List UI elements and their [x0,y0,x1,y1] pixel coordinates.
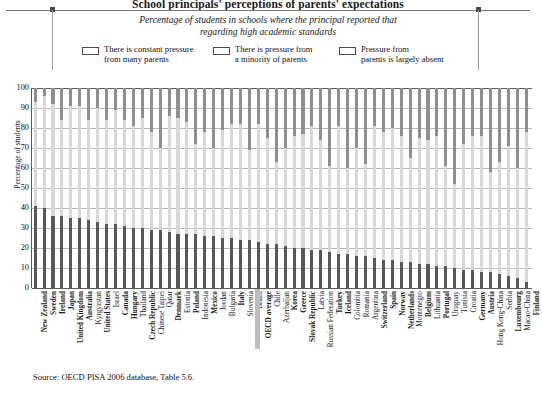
bar-segment-2 [400,88,403,136]
bar-segment-2 [275,88,278,162]
bar-argentina [364,88,367,288]
x-label-text: Austria [487,289,496,381]
x-label-text: Ireland [58,289,67,381]
bar-segment-0 [507,276,510,288]
bar-segment-1 [516,168,519,278]
bar-segment-0 [525,282,528,288]
bar-segment-2 [391,88,394,128]
bar-segment-1 [78,106,81,218]
bar-segment-2 [444,88,447,166]
bar-segment-0 [87,220,90,288]
bar-switzerland [373,88,376,288]
bar-segment-0 [168,232,171,288]
bar-belgium [418,88,421,288]
bar-segment-1 [525,132,528,282]
bar-segment-0 [159,230,162,288]
x-label-text: Thailand [139,289,148,381]
bar-segment-1 [168,116,171,232]
bar-segment-1 [221,130,224,238]
bar-segment-0 [51,216,54,288]
bar-segment-2 [418,88,421,138]
bar-segment-2 [212,88,215,148]
x-label-text: Australia [85,289,94,381]
bar-segment-1 [43,96,46,208]
bar-canada [114,88,117,288]
bar-segment-0 [239,240,242,288]
bar-segment-0 [257,242,260,288]
bar-segment-0 [489,272,492,288]
bar-segment-2 [498,88,501,162]
bar-segment-1 [418,138,421,264]
x-label-text: Russian Federation [326,289,335,381]
bar-segment-2 [203,88,206,132]
subtitle-line-2: regarding high academic standards [60,26,476,38]
y-tick-label-50: 50 [10,183,29,192]
bar-segment-1 [114,110,117,224]
y-tick-label-80: 80 [10,123,29,132]
header-edge-right [478,10,479,70]
bar-segment-1 [373,126,376,258]
y-tick-label-100: 100 [10,83,29,92]
y-tick-label-40: 40 [10,203,29,212]
x-label-text: Jordan [219,289,228,381]
bar-segment-1 [176,118,179,234]
bar-segment-1 [462,144,465,270]
bar-lithuania [426,88,429,288]
bar-segment-1 [284,148,287,246]
bar-segment-2 [176,88,179,118]
bar-segment-2 [435,88,438,136]
bar-segment-2 [105,88,108,120]
bar-luxembourg [507,88,510,288]
bar-segment-1 [355,148,358,256]
bar-segment-1 [203,132,206,236]
legend-item-pressure-absent: Pressure from parents is largely absent [339,44,444,64]
bar-segment-2 [453,88,456,184]
bar-united-states [96,88,99,288]
bar-segment-2 [266,88,269,138]
bar-segment-2 [230,88,233,124]
bar-uruguay [444,88,447,288]
bar-slovak-republic [301,88,304,288]
bar-segment-1 [444,166,447,266]
bar-segment-1 [310,126,313,250]
bar-segment-0 [435,266,438,288]
legend-swatch-icon-1 [213,47,230,55]
x-label-text: Estonia [183,289,192,381]
bar-segment-0 [284,246,287,288]
bar-segment-0 [328,252,331,288]
legend-label-0: There is constant pressure from many par… [104,44,194,64]
bar-segment-0 [444,266,447,288]
legend-item-constant-pressure: There is constant pressure from many par… [82,44,194,64]
bar-segment-1 [150,132,153,230]
x-label-text: Spain [389,289,398,381]
bar-segment-1 [69,106,72,218]
bar-segment-1 [391,128,394,260]
bar-indonesia [194,88,197,288]
bar-segment-0 [400,262,403,288]
legend-swatch-icon-2 [339,47,356,55]
bar-segment-2 [301,88,304,134]
x-label-text: Poland [192,289,201,381]
bar-segment-1 [60,120,63,216]
bar-segment-0 [266,244,269,288]
bar-segment-2 [516,88,519,168]
bar-azerbaijan [275,88,278,288]
bar-poland [185,88,188,288]
bar-finland [525,88,528,288]
bar-greece [293,88,296,288]
bar-segment-2 [194,88,197,144]
x-label-text: Indonesia [201,289,210,381]
bar-turkey [328,88,331,288]
legend-label-1: There is pressure from a minority of par… [235,44,313,64]
x-label-text: Hong Kong-China [496,289,505,381]
bar-segment-0 [248,240,251,288]
x-label-text: Luxembourg [514,289,523,381]
x-label-text: Colombia [353,289,362,381]
header-rule [6,10,530,11]
x-label-text: Latvia [317,289,326,381]
bar-segment-2 [284,88,287,148]
bar-germany [471,88,474,288]
bar-segment-0 [373,258,376,288]
x-label-finland: Finland [532,289,542,381]
bar-croatia [462,88,465,288]
